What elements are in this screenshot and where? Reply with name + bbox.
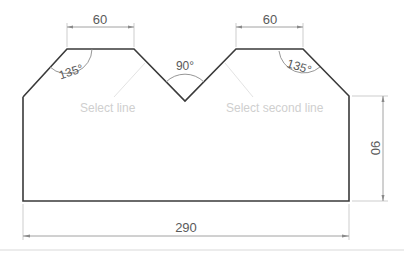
arrow-icon: [342, 235, 349, 238]
drawing-canvas: 60 60 135° 135° 90° Select line Select s…: [0, 0, 404, 253]
arrow-icon: [382, 96, 385, 102]
angle-arc-notch: [166, 74, 204, 82]
arrow-icon: [236, 26, 242, 29]
prompt-leader-first: [114, 63, 145, 97]
arrow-icon: [382, 195, 385, 201]
angle-notch: 90°: [176, 59, 194, 73]
dimension-top-right: 60: [263, 12, 277, 27]
dimension-top-left: 60: [93, 12, 107, 27]
dimension-overall-width: 290: [175, 220, 197, 235]
dimension-right-height: 90: [368, 141, 383, 155]
prompt-select-second-line: Select second line: [226, 101, 324, 115]
prompt-select-line: Select line: [80, 101, 136, 115]
angle-left: 135°: [57, 61, 85, 82]
arrow-icon: [297, 26, 303, 29]
arrow-icon: [67, 26, 73, 29]
arrow-icon: [23, 235, 30, 238]
prompt-leader-second: [225, 63, 253, 97]
angle-right: 135°: [285, 56, 313, 77]
arrow-icon: [128, 26, 134, 29]
